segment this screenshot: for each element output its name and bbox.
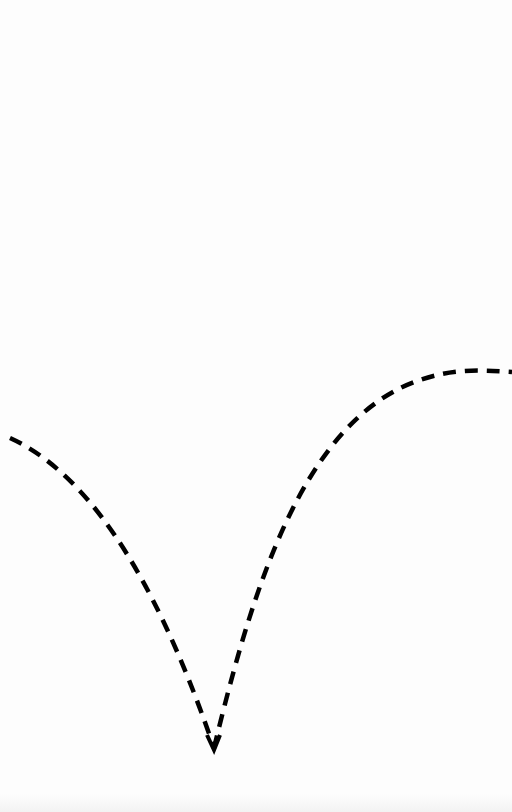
right-branch-dashed-curve bbox=[214, 370, 512, 748]
scan-edge-shadow bbox=[0, 794, 512, 812]
left-branch-dashed-curve bbox=[10, 438, 214, 748]
cusp-curve-figure bbox=[0, 0, 512, 812]
diagram-canvas bbox=[0, 0, 512, 812]
